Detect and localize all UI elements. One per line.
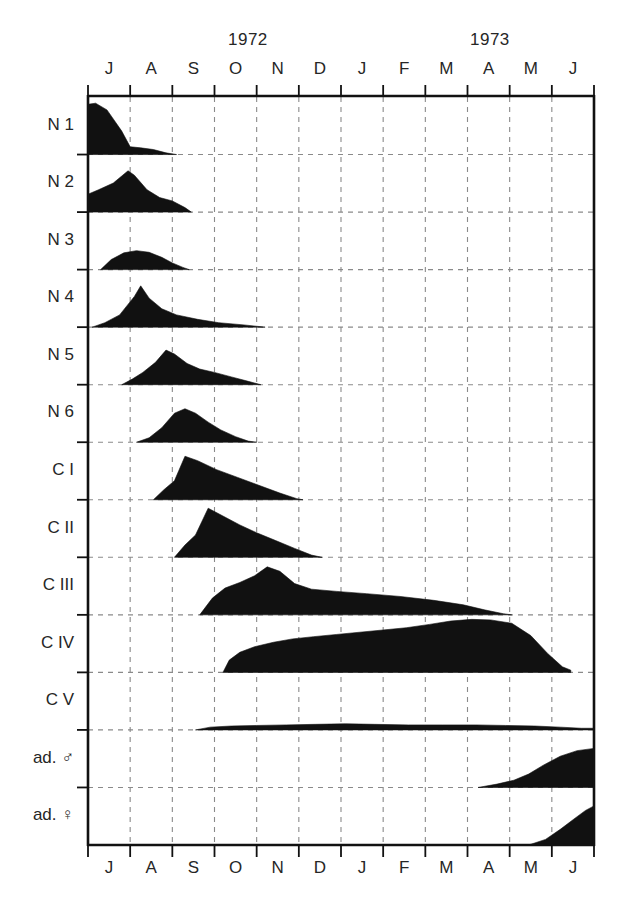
density-curve-n6 [136, 409, 256, 442]
month-label-top: S [172, 59, 214, 79]
plot-canvas [0, 0, 624, 910]
stage-label-c2: C II [0, 518, 74, 538]
density-curve-c5 [196, 724, 594, 730]
month-label-top: J [341, 59, 383, 79]
month-label-bottom: J [552, 858, 594, 878]
density-curve-n5 [122, 350, 261, 385]
density-curve-n2 [88, 171, 191, 212]
month-label-top: M [510, 59, 552, 79]
month-label-bottom: M [510, 858, 552, 878]
stage-label-c4: C IV [0, 633, 74, 653]
month-label-bottom: S [172, 858, 214, 878]
month-label-bottom: M [425, 858, 467, 878]
month-label-bottom: J [88, 858, 130, 878]
month-label-top: A [130, 59, 172, 79]
month-label-top: J [88, 59, 130, 79]
density-curve-adf [529, 806, 594, 845]
stage-label-n4: N 4 [0, 287, 74, 307]
month-label-top: F [383, 59, 425, 79]
stage-label-n5: N 5 [0, 345, 74, 365]
density-curve-n3 [101, 251, 190, 270]
stage-label-adf: ad. ♀ [0, 805, 74, 825]
month-label-bottom: O [215, 858, 257, 878]
month-label-bottom: N [257, 858, 299, 878]
density-curve-c2 [174, 508, 322, 557]
stage-label-adm: ad. ♂ [0, 748, 74, 768]
stage-label-c3: C III [0, 575, 74, 595]
month-label-bottom: J [341, 858, 383, 878]
density-curve-adm [478, 748, 594, 787]
stage-label-n2: N 2 [0, 172, 74, 192]
month-label-top: M [425, 59, 467, 79]
density-curve-n4 [92, 286, 265, 327]
month-label-bottom: F [383, 858, 425, 878]
month-label-bottom: A [130, 858, 172, 878]
month-label-top: N [257, 59, 299, 79]
month-label-top: O [215, 59, 257, 79]
density-curve-c1 [153, 456, 303, 500]
stage-label-c5: C V [0, 690, 74, 710]
density-curve-c3 [200, 567, 512, 615]
stage-label-n1: N 1 [0, 115, 74, 135]
year-label: 1973 [470, 30, 510, 50]
phenology-chart: 19721973JJAASSOONNDDJJFFMMAAMMJJN 1N 2N … [0, 0, 624, 910]
month-label-top: A [468, 59, 510, 79]
month-label-bottom: D [299, 858, 341, 878]
month-label-top: D [299, 59, 341, 79]
stage-label-n3: N 3 [0, 230, 74, 250]
month-label-top: J [552, 59, 594, 79]
month-label-bottom: A [468, 858, 510, 878]
density-curve-n1 [88, 103, 177, 154]
stage-label-n6: N 6 [0, 402, 74, 422]
density-curve-c4 [223, 619, 571, 672]
stage-label-c1: C I [0, 460, 74, 480]
year-label: 1972 [228, 30, 268, 50]
